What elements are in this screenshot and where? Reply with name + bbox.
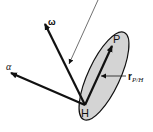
- point-p-label: P: [113, 33, 120, 45]
- kinematics-diagram: ω α P H rP/H: [0, 0, 153, 132]
- point-h-label: H: [81, 107, 89, 119]
- omega-vector: [45, 24, 85, 105]
- r-vector-label: rP/H: [128, 71, 144, 84]
- r-subscript: P/H: [131, 76, 144, 84]
- omega-label: ω: [48, 17, 56, 27]
- pointer-line: [69, 0, 98, 64]
- alpha-label: α: [6, 61, 12, 72]
- alpha-vector: [11, 73, 85, 105]
